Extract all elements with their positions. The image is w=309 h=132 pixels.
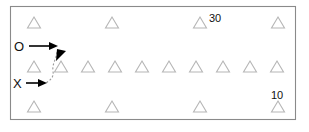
o-annotation-label: O (14, 39, 24, 54)
value-label-30: 30 (209, 12, 221, 24)
diagram-frame-border (11, 7, 296, 120)
value-label-10: 10 (271, 89, 283, 101)
diagram-canvas: O X 30 10 (0, 0, 309, 132)
x-annotation-label: X (13, 76, 22, 91)
diagram-figure: O X 30 10 (0, 0, 309, 132)
